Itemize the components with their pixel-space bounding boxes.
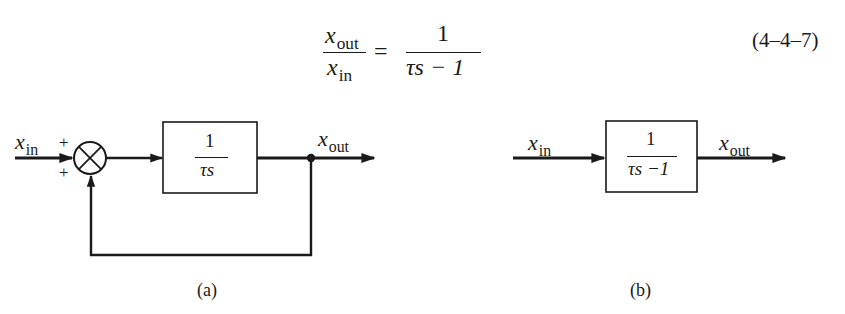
- a-plus-sign-top: +: [59, 133, 69, 153]
- b-output-label: xout: [719, 130, 750, 156]
- a-plus-sign-bottom: +: [59, 163, 69, 183]
- b-input-label: xin: [528, 130, 551, 156]
- a-block-numerator: 1: [205, 130, 215, 152]
- a-block-denominator: τs: [200, 159, 214, 181]
- b-block-fraction-bar: [627, 156, 677, 157]
- summing-junction: [74, 142, 106, 174]
- a-block-fraction-bar: [195, 157, 228, 158]
- a-output-label: xout: [318, 126, 349, 152]
- a-caption: (a): [197, 280, 217, 301]
- b-block-numerator: 1: [646, 128, 656, 150]
- block-diagrams: [0, 0, 845, 314]
- b-block-denominator: τs −1: [628, 158, 669, 180]
- a-input-label: xin: [15, 129, 38, 155]
- b-caption: (b): [630, 280, 651, 301]
